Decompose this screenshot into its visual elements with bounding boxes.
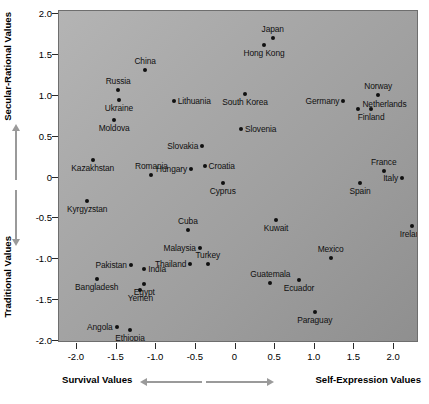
y-axis-tick xyxy=(52,95,58,96)
y-axis-tick xyxy=(52,13,58,14)
y-axis-tick xyxy=(52,299,58,300)
data-point-label: Croatia xyxy=(209,162,235,171)
data-point xyxy=(95,277,99,281)
y-axis-tick-label: 1.5 xyxy=(39,48,52,59)
data-point-label: Kuwait xyxy=(264,224,289,233)
scatter-chart-figure: JapanHong KongChinaRussiaSouth KoreaNorw… xyxy=(0,0,429,404)
y-axis-tick-label: 0 xyxy=(47,171,52,182)
data-point-label: Cuba xyxy=(178,217,198,226)
data-point-label: Bangladesh xyxy=(75,283,118,292)
y-axis-tick xyxy=(52,136,58,137)
data-point-label: South Korea xyxy=(222,98,267,107)
data-point xyxy=(200,144,204,148)
data-point-label: Mexico xyxy=(318,245,344,254)
data-point xyxy=(297,278,301,282)
x-axis-tick-label: 2.0 xyxy=(386,351,399,362)
x-axis-tick-label: -1.5 xyxy=(107,351,123,362)
data-point xyxy=(117,98,121,102)
data-point xyxy=(206,262,210,266)
data-point xyxy=(271,36,275,40)
y-axis-tick-label: -0.5 xyxy=(36,212,52,223)
data-point-label: Paraguay xyxy=(297,316,332,325)
y-axis-upper-title: Secular-Rational Values xyxy=(2,12,13,121)
y-axis-tick-label: 1.0 xyxy=(39,89,52,100)
data-point xyxy=(262,43,266,47)
data-point-label: Slovenia xyxy=(245,125,276,134)
data-point-label: Ireland xyxy=(400,230,418,239)
x-axis-tick xyxy=(353,343,354,349)
x-axis-tick-label: -1.0 xyxy=(147,351,163,362)
data-point xyxy=(341,99,345,103)
y-axis-up-arrow-icon xyxy=(15,130,17,180)
data-point xyxy=(128,328,132,332)
data-point-label: Kazakhstan xyxy=(71,164,114,173)
data-point xyxy=(188,262,192,266)
x-axis-tick-label: -0.5 xyxy=(187,351,203,362)
x-axis-right-arrow-icon xyxy=(206,381,268,383)
y-axis-tick xyxy=(52,217,58,218)
data-point-label: Ecuador xyxy=(284,284,315,293)
x-axis-left-title: Survival Values xyxy=(62,374,132,385)
x-axis-tick-label: 0 xyxy=(232,351,237,362)
data-point-label: Malaysia xyxy=(164,243,196,252)
x-axis-right-title: Self-Expression Values xyxy=(315,374,421,385)
plot-area: JapanHong KongChinaRussiaSouth KoreaNorw… xyxy=(58,10,418,342)
data-point xyxy=(274,218,278,222)
data-point-label: Romania xyxy=(135,162,168,171)
x-axis-tick xyxy=(274,343,275,349)
data-point-label: Slovakia xyxy=(167,142,198,151)
data-point-label: Japan xyxy=(262,25,284,34)
data-point-label: Russia xyxy=(106,77,131,86)
data-point-label: Moldova xyxy=(99,124,130,133)
data-point xyxy=(356,107,360,111)
data-point xyxy=(400,176,404,180)
data-point xyxy=(268,281,272,285)
data-point-label: China xyxy=(134,57,155,66)
data-point-label: Lithuania xyxy=(178,97,211,106)
data-point xyxy=(358,181,362,185)
data-point xyxy=(129,263,133,267)
data-point xyxy=(142,282,146,286)
data-point xyxy=(116,88,120,92)
y-axis-tick xyxy=(52,54,58,55)
data-point xyxy=(142,267,146,271)
data-point-label: Guatemala xyxy=(250,270,290,279)
y-axis-tick xyxy=(52,177,58,178)
data-point xyxy=(186,228,190,232)
data-point-label: Yemen xyxy=(128,294,153,303)
x-axis-tick xyxy=(155,343,156,349)
data-point-label: India xyxy=(148,265,166,274)
y-axis-tick-label: 2.0 xyxy=(39,7,52,18)
y-axis-tick-label: -1.0 xyxy=(36,253,52,264)
y-axis-tick-label: -1.5 xyxy=(36,294,52,305)
x-axis-tick xyxy=(195,343,196,349)
x-axis-tick xyxy=(76,343,77,349)
data-point xyxy=(143,68,147,72)
data-point-label: Spain xyxy=(350,187,371,196)
data-point xyxy=(239,127,243,131)
y-axis-tick xyxy=(52,340,58,341)
data-point-label: Norway xyxy=(364,82,392,91)
data-point xyxy=(243,92,247,96)
data-point xyxy=(203,164,207,168)
data-point xyxy=(369,107,373,111)
y-axis-tick-label: 0.5 xyxy=(39,130,52,141)
data-point xyxy=(329,256,333,260)
data-point xyxy=(138,288,142,292)
data-point xyxy=(376,93,380,97)
data-point xyxy=(115,325,119,329)
data-point-label: Ukraine xyxy=(105,104,133,113)
data-point xyxy=(149,173,153,177)
data-point-label: Cyprus xyxy=(210,187,236,196)
data-point-label: Ethiopia xyxy=(115,334,144,342)
data-point-label: Turkey xyxy=(195,251,220,260)
data-point-label: Pakistan xyxy=(95,261,126,270)
data-point xyxy=(189,167,193,171)
data-point xyxy=(172,99,176,103)
data-point-label: Italy xyxy=(383,173,398,182)
data-point xyxy=(313,310,317,314)
data-point xyxy=(85,199,89,203)
x-axis-tick xyxy=(393,343,394,349)
x-axis-tick-label: 1.5 xyxy=(347,351,360,362)
data-point-label: Germany xyxy=(306,96,340,105)
